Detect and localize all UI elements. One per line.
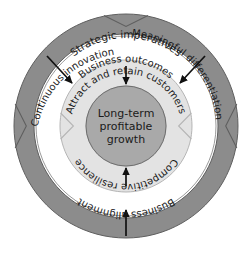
center-line-1: Long-term	[98, 107, 155, 120]
center-line-2: profitable	[100, 120, 153, 133]
diagram-canvas: Strategic imperatives Continuous innovat…	[0, 0, 252, 262]
center-line-3: growth	[107, 133, 145, 146]
concentric-ring-diagram: Strategic imperatives Continuous innovat…	[0, 0, 252, 262]
